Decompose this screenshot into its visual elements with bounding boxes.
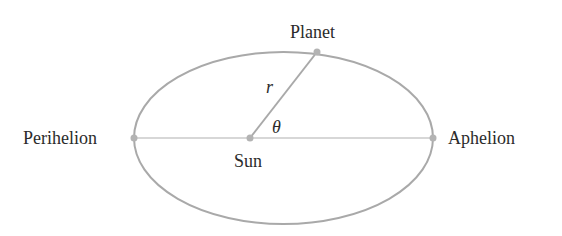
sun-point [247,135,254,142]
aphelion-label: Aphelion [448,128,515,148]
perihelion-label: Perihelion [23,128,97,148]
orbit-diagram: Planet Sun Perihelion Aphelion r θ [0,0,562,236]
aphelion-point [430,135,437,142]
angle-label: θ [272,117,281,137]
orbit-svg: Planet Sun Perihelion Aphelion r θ [0,0,562,236]
planet-point [314,49,321,56]
radius-line [250,52,317,138]
planet-label: Planet [290,22,335,42]
radius-label: r [266,77,274,97]
sun-label: Sun [234,151,262,171]
perihelion-point [131,135,138,142]
